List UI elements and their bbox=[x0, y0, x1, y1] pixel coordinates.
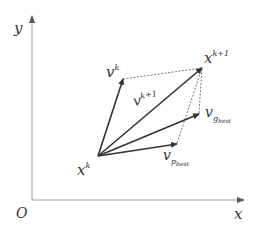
label-vpbest: vpbest bbox=[163, 147, 190, 167]
origin-label: O bbox=[16, 205, 28, 221]
label-vgbest: vgbest bbox=[205, 104, 232, 124]
label-vk1: vk+1 bbox=[132, 89, 159, 109]
vector-vk1 bbox=[98, 68, 202, 156]
pso-vector-diagram: y x O xk xk+1 vk vk+1 vgbest vpbest bbox=[0, 0, 261, 234]
label-vk: vk bbox=[106, 63, 119, 81]
vectors bbox=[98, 68, 202, 156]
vector-vgbest bbox=[98, 114, 199, 156]
y-axis-label: y bbox=[13, 19, 23, 37]
label-xk: xk bbox=[77, 161, 90, 179]
label-xk1: xk+1 bbox=[204, 49, 229, 67]
x-axis-label: x bbox=[234, 205, 243, 223]
labels: xk xk+1 vk vk+1 vgbest vpbest bbox=[77, 49, 232, 179]
